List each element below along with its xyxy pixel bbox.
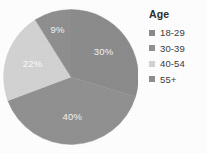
legend-swatch-icon [149, 61, 155, 67]
legend-item[interactable]: 40-54 [149, 56, 205, 72]
pie-slice-label: 22% [23, 58, 43, 69]
legend-item[interactable]: 30-39 [149, 41, 205, 57]
pie-slice-group [3, 10, 138, 145]
legend-swatch-icon [149, 76, 155, 82]
legend-swatch-icon [149, 30, 155, 36]
pie-slice-label: 9% [51, 24, 65, 35]
pie-chart-svg: 30%40%22%9% [3, 1, 138, 152]
pie-chart-plot-area: 30%40%22%9% [3, 1, 138, 152]
legend-item-label: 55+ [160, 74, 176, 85]
legend-item[interactable]: 18-29 [149, 25, 205, 41]
legend: Age 18-2930-3940-5455+ [149, 8, 205, 87]
legend-swatch-icon [149, 45, 155, 51]
legend-item[interactable]: 55+ [149, 72, 205, 88]
legend-item-label: 30-39 [160, 43, 185, 54]
legend-title: Age [149, 8, 205, 20]
legend-item-label: 40-54 [160, 58, 185, 69]
pie-slice-label: 30% [94, 46, 114, 57]
legend-items: 18-2930-3940-5455+ [149, 25, 205, 87]
legend-item-label: 18-29 [160, 27, 185, 38]
pie-slice-label: 40% [62, 111, 82, 122]
pie-chart-figure: 30%40%22%9% Age 18-2930-3940-5455+ [0, 0, 207, 153]
